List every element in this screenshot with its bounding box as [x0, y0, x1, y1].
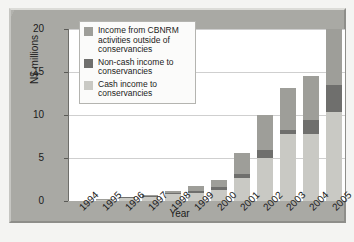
chart-figure: N$ millions 05101520 1994199519961997199…: [0, 0, 354, 242]
legend-label: Non-cash income to conservancies: [98, 58, 191, 77]
bar-2002: [257, 115, 273, 201]
y-tick-label: 0: [4, 195, 44, 206]
bar-segment: [280, 134, 296, 201]
bar-2004: [303, 76, 319, 201]
bar-segment: [280, 88, 296, 130]
bar-segment: [165, 191, 181, 193]
legend-swatch-outside: [84, 27, 93, 36]
bar-segment: [257, 150, 273, 158]
bar-2003: [280, 87, 296, 201]
y-tick-mark: [64, 201, 68, 202]
legend-swatch-cash: [84, 81, 93, 90]
bar-segment: [188, 191, 204, 193]
legend-label: Income from CBNRM activities outside of …: [98, 26, 191, 55]
legend-label: Cash income to conservancies: [98, 80, 191, 99]
bar-segment: [188, 186, 204, 192]
legend-item: Non-cash income to conservancies: [84, 58, 191, 77]
chart-legend: Income from CBNRM activities outside of …: [79, 21, 196, 104]
bar-segment: [303, 76, 319, 120]
bar-segment: [303, 134, 319, 201]
bar-segment: [211, 187, 227, 190]
bar-segment: [326, 112, 342, 201]
bar-segment: [234, 174, 250, 177]
bar-segment: [280, 130, 296, 134]
y-tick-label: 20: [4, 23, 44, 34]
bar-segment: [326, 85, 342, 112]
legend-item: Income from CBNRM activities outside of …: [84, 26, 191, 55]
legend-swatch-noncash: [84, 59, 93, 68]
bar-segment: [257, 115, 273, 150]
bar-segment: [234, 153, 250, 175]
bar-segment: [211, 180, 227, 188]
bar-segment: [326, 29, 342, 85]
x-axis-title: Year: [11, 208, 348, 219]
bar-segment: [303, 120, 319, 134]
chart-panel: N$ millions 05101520 1994199519961997199…: [9, 8, 346, 223]
y-tick-label: 15: [4, 66, 44, 77]
legend-item: Cash income to conservancies: [84, 80, 191, 99]
bar-2005: [326, 29, 342, 201]
y-tick-label: 5: [4, 152, 44, 163]
y-tick-label: 10: [4, 109, 44, 120]
